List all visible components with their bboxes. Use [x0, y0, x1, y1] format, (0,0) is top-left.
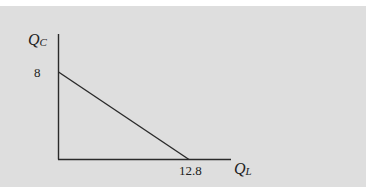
y-axis-label: QC: [28, 31, 48, 48]
x-tick-label: 12.8: [179, 163, 202, 178]
budget-line: [59, 72, 190, 160]
y-tick-label: 8: [34, 65, 41, 80]
x-axis-label: QL: [234, 160, 252, 177]
chart: QC 8 12.8 QL: [0, 0, 366, 187]
